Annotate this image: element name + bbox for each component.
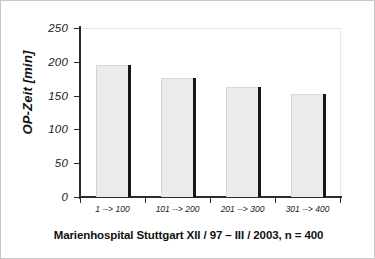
chart-figure: 0 50 100 150 200 250 1 --> 100 101 --> 2… (0, 0, 375, 259)
bar-shadow-1 (193, 78, 196, 197)
bar-shadow-0 (128, 65, 131, 197)
y-tick-label-0: 0 (28, 191, 68, 203)
y-tick-100 (74, 129, 80, 130)
x-tick-label-2: 201 --> 300 (210, 204, 275, 214)
x-tick-2 (210, 198, 211, 203)
bar-shadow-3 (323, 94, 326, 197)
y-axis-title: OP-Zeit [min] (20, 33, 35, 153)
x-tick-0 (80, 198, 81, 203)
bar-category-3 (291, 94, 323, 197)
bar-category-1 (161, 78, 193, 197)
x-tick-1 (145, 198, 146, 203)
bar-category-0 (96, 65, 128, 197)
bar-shadow-2 (258, 87, 261, 197)
y-tick-label-50: 50 (28, 157, 68, 169)
y-tick-150 (74, 96, 80, 97)
y-axis-line (79, 26, 81, 199)
x-tick-label-0: 1 --> 100 (80, 204, 145, 214)
x-tick-4 (340, 198, 341, 203)
x-tick-label-1: 101 --> 200 (145, 204, 210, 214)
y-tick-50 (74, 163, 80, 164)
y-tick-250 (74, 28, 80, 29)
y-tick-200 (74, 62, 80, 63)
x-tick-label-3: 301 --> 400 (275, 204, 340, 214)
chart-caption: Marienhospital Stuttgart XII / 97 – III … (1, 229, 375, 241)
bar-category-2 (226, 87, 258, 197)
x-tick-3 (275, 198, 276, 203)
